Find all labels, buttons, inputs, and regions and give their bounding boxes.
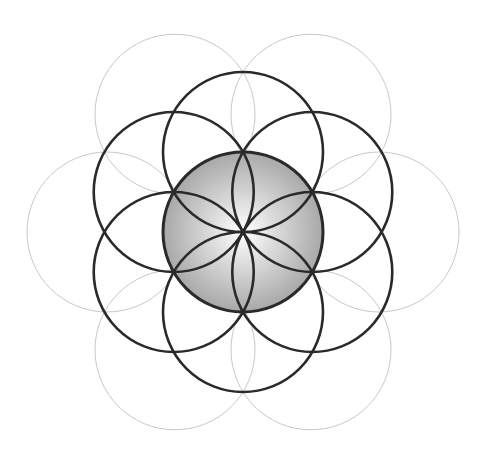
- seed-of-life-diagram: [0, 0, 486, 463]
- inner-dark-circles: [94, 72, 393, 392]
